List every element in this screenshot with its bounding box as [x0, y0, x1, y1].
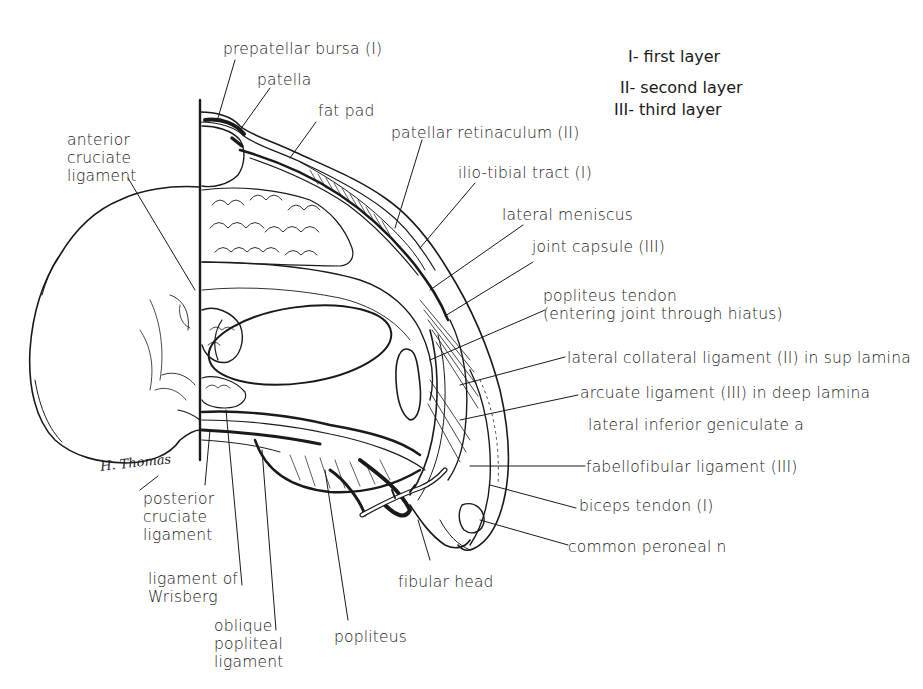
- label-ilio-tibial-tract: ilio-tibial tract (I): [458, 164, 592, 182]
- tibial-plateau-oval: [204, 295, 397, 396]
- label-popliteus-tendon: popliteus tendon (entering joint through…: [543, 287, 783, 323]
- label-popliteus: popliteus: [334, 628, 407, 646]
- leader-lines: [128, 60, 585, 630]
- legend-item-third-layer: III- third layer: [614, 100, 722, 120]
- legend-item-first-layer: I- first layer: [628, 47, 720, 67]
- label-biceps-tendon: biceps tendon (I): [579, 497, 714, 515]
- anatomy-diagram: I- first layer II- second layer III- thi…: [0, 0, 923, 689]
- label-fabellofibular-ligament: fabellofibular ligament (III): [586, 458, 797, 476]
- femoral-condyle-outline: [30, 187, 200, 463]
- label-common-peroneal: common peroneal n: [568, 538, 727, 556]
- label-lateral-inferior-geniculate: lateral inferior geniculate a: [588, 416, 804, 434]
- label-fibular-head: fibular head: [398, 573, 494, 591]
- label-anterior-cruciate-ligament: anterior cruciate ligament: [67, 131, 137, 185]
- label-prepatellar-bursa: prepatellar bursa (I): [223, 40, 382, 58]
- label-ligament-of-wrisberg: ligament of Wrisberg: [148, 570, 238, 606]
- label-lateral-collateral-ligament: lateral collateral ligament (II) in sup …: [567, 349, 911, 367]
- patella-outline: [202, 126, 244, 187]
- label-joint-capsule: joint capsule (III): [532, 238, 665, 256]
- label-oblique-popliteal-ligament: oblique popliteal ligament: [214, 617, 284, 671]
- legend-item-second-layer: II- second layer: [620, 78, 743, 98]
- label-posterior-cruciate-ligament: posterior cruciate ligament: [143, 490, 214, 544]
- label-patella: patella: [257, 71, 311, 89]
- label-fat-pad: fat pad: [318, 102, 375, 120]
- label-patellar-retinaculum: patellar retinaculum (II): [391, 124, 579, 142]
- label-lateral-meniscus: lateral meniscus: [502, 206, 633, 224]
- label-arcuate-ligament: arcuate ligament (III) in deep lamina: [580, 384, 870, 402]
